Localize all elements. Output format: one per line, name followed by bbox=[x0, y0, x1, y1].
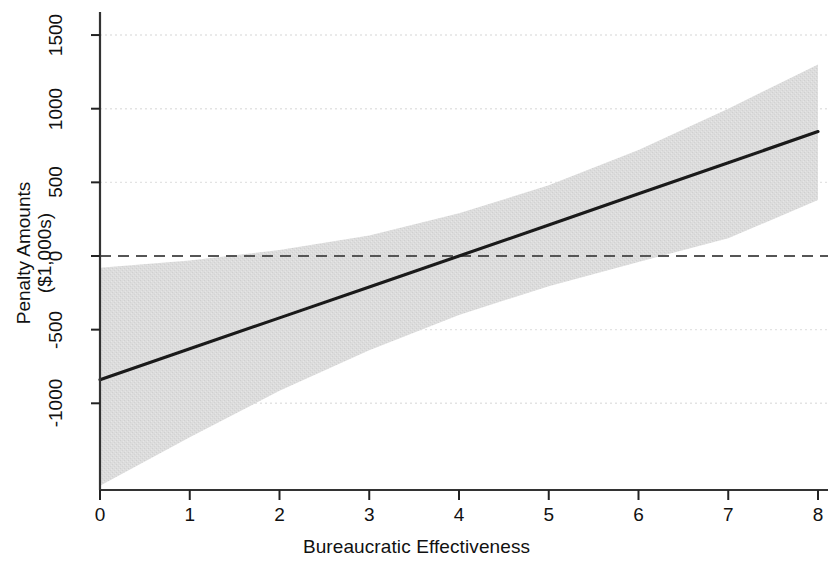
plot-area bbox=[0, 0, 833, 564]
y-axis-ticks bbox=[91, 35, 100, 403]
marginal-effect-line bbox=[100, 132, 818, 380]
chart-figure: Penalty Amounts ($1,000s) Bureaucratic E… bbox=[0, 0, 833, 564]
x-axis-ticks bbox=[100, 490, 818, 500]
confidence-interval-band bbox=[100, 65, 818, 486]
